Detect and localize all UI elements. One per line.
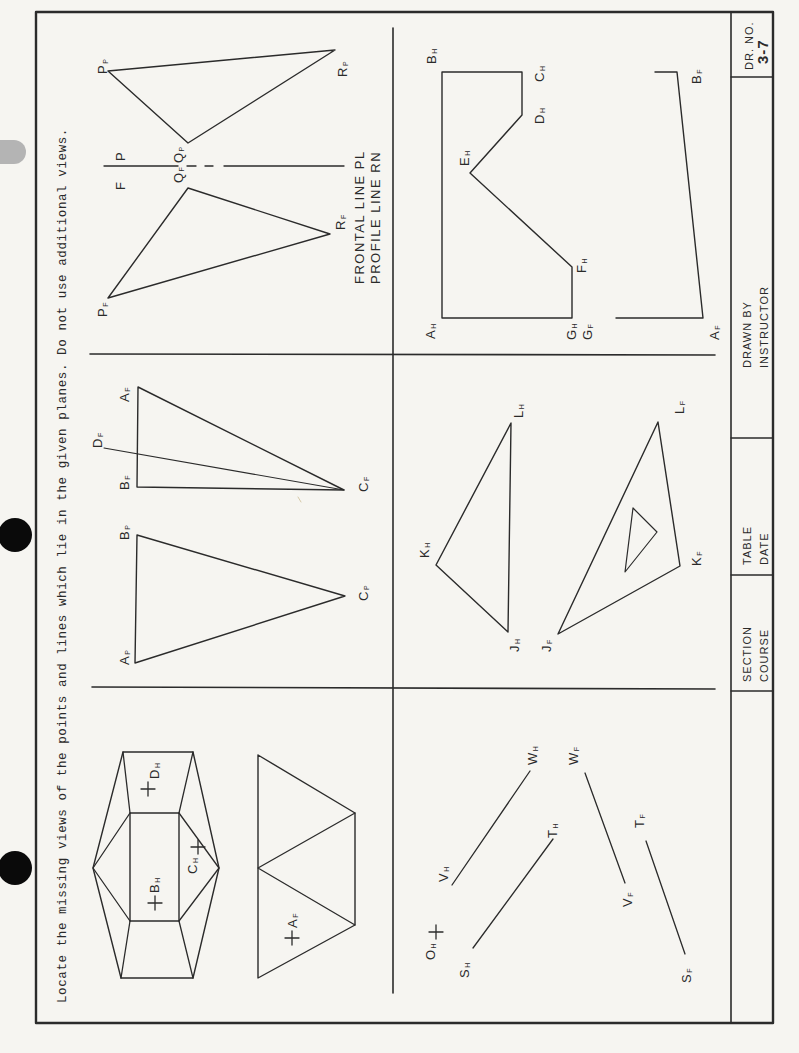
label-gf: GF (581, 324, 594, 340)
note-frontal-line: FRONTAL LINE PL (352, 150, 368, 284)
label-bh-solid: BH (148, 877, 161, 893)
triangle-pqr-front (108, 188, 330, 298)
fold-label-p: P (114, 152, 127, 161)
triangle-pqr-profile (108, 50, 335, 143)
triangle-abc-profile (135, 535, 345, 663)
label-gh: GH (565, 323, 578, 340)
line-st-horizontal (473, 839, 553, 948)
label-sh: SH (458, 962, 471, 978)
note-profile-line: PROFILE LINE RN (368, 151, 384, 284)
panel-divider-lower (92, 687, 715, 689)
label-bh: BH (425, 48, 438, 64)
label-rf: RF (334, 214, 347, 230)
label-ch-solid: CH (186, 858, 199, 874)
polyline-front-view (616, 72, 703, 318)
sheet-border (36, 12, 773, 1023)
label-dh-solid: DH (148, 763, 161, 779)
label-eh: EH (458, 150, 471, 166)
course-label: COURSE (757, 626, 771, 682)
triangle-jkl-horizontal (436, 423, 511, 632)
label-vf: VF (621, 892, 634, 907)
line-df (104, 448, 344, 490)
label-ap: AP (118, 650, 131, 665)
label-qf: QF (172, 167, 185, 183)
panel-divider-upper (90, 354, 715, 355)
triangle-inner (625, 508, 657, 572)
label-pp: PP (96, 59, 109, 74)
table-label: TABLE (740, 526, 754, 565)
label-af-solid: AF (286, 913, 299, 928)
trapezoid-front (258, 755, 355, 978)
label-sf: SF (680, 968, 693, 983)
label-cf: CF (357, 476, 370, 492)
title-block-section-course: SECTION COURSE (740, 626, 771, 682)
label-df: DF (91, 432, 104, 448)
label-lf: LF (673, 400, 686, 414)
instruction-text: Locate the missing views of the points a… (57, 128, 70, 1003)
label-bp: BP (118, 525, 131, 540)
label-jh: JH (508, 638, 521, 652)
label-lh: LH (512, 404, 525, 418)
title-block-drawn-by: DRAWN BY INSTRUCTOR (740, 286, 771, 368)
label-dh: DH (533, 108, 546, 124)
label-wh: WH (526, 746, 539, 765)
label-rp: RP (336, 61, 349, 77)
label-af-abc: AF (118, 387, 131, 402)
section-label: SECTION (740, 626, 754, 682)
label-cp: CP (357, 585, 370, 601)
line-vw-horizontal (452, 771, 530, 885)
label-ah: AH (424, 323, 437, 339)
label-ch: CH (533, 66, 546, 82)
label-bf-abc: BF (118, 475, 131, 490)
label-jf: JF (540, 639, 553, 652)
title-block-table-date: TABLE DATE (740, 526, 771, 565)
line-vw-front (585, 773, 625, 883)
label-af: AF (708, 325, 721, 340)
label-wf: WF (567, 746, 580, 765)
triangle-jkl-front (558, 422, 680, 634)
label-kf: KF (690, 551, 703, 566)
date-label: DATE (757, 526, 771, 565)
drawn-by-value: INSTRUCTOR (757, 286, 771, 368)
polygon-horizontal-view (442, 72, 572, 318)
label-tf: TF (633, 814, 646, 828)
label-kh: KH (418, 542, 431, 558)
label-qp: QP (172, 146, 185, 163)
label-fh: FH (575, 258, 588, 273)
drawing-sheet: Locate the missing views of the points a… (0, 0, 799, 1053)
drawn-by-label: DRAWN BY (740, 286, 754, 368)
fold-label-f: F (114, 182, 127, 190)
label-bf: BF (690, 69, 703, 84)
hexagonal-outline (93, 752, 219, 978)
triangle-abc-front (137, 387, 344, 490)
label-vh: VH (437, 866, 450, 882)
line-st-front (646, 841, 685, 954)
label-th: TH (546, 823, 559, 838)
dr-no-value: 3-7 (756, 21, 770, 70)
title-block-dr-no: DR. NO. 3-7 (742, 21, 770, 70)
label-oh: OH (424, 943, 437, 960)
label-pf: PF (96, 302, 109, 317)
